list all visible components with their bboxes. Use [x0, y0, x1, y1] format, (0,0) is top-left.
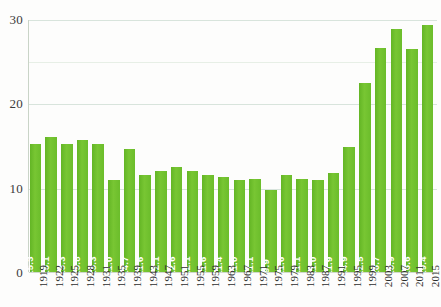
bar-slot: 26.7	[374, 20, 390, 273]
bar-slot: 16.1	[45, 20, 61, 273]
x-axis-tick-label: 1919	[29, 275, 45, 307]
bar[interactable]: 12.1	[155, 171, 167, 273]
x-axis-tick-label: 1979	[280, 275, 296, 307]
bar-slot: 22.5	[359, 20, 375, 273]
bar-slot: 11.9	[327, 20, 343, 273]
bar-slot: 15.8	[76, 20, 92, 273]
bar-slot: 12.1	[186, 20, 202, 273]
bar-slot: 26.6	[406, 20, 422, 273]
bar[interactable]: 16.1	[45, 137, 57, 273]
x-axis-tick-label: 1991	[327, 275, 343, 307]
x-axis-tick-label: 1999	[359, 275, 375, 307]
x-axis-tick-label: 1951	[170, 275, 186, 307]
bar[interactable]: 26.6	[406, 49, 418, 273]
x-axis-tick-label: 1947	[155, 275, 171, 307]
bar[interactable]: 15.3	[30, 144, 42, 273]
bar[interactable]: 22.5	[359, 83, 371, 273]
bar-slot: 29.4	[421, 20, 437, 273]
bar[interactable]: 14.7	[124, 149, 136, 273]
bar[interactable]: 15.3	[61, 144, 73, 273]
bar-slot: 11.0	[107, 20, 123, 273]
y-axis-tick-label: 10	[10, 181, 23, 197]
bar-slot: 11.1	[249, 20, 265, 273]
bar-slot: 14.7	[123, 20, 139, 273]
x-axis-tick-label: 1967	[233, 275, 249, 307]
bar-slot: 11.6	[139, 20, 155, 273]
x-axis-tick-label: 2011	[406, 275, 422, 307]
bar-slot: 11.0	[233, 20, 249, 273]
x-axis-tick-label: 1983	[296, 275, 312, 307]
y-axis-tick-label: 0	[16, 265, 23, 281]
y-axis-tick-label: 20	[10, 96, 23, 112]
x-axis-tick-label: 1935	[107, 275, 123, 307]
bar[interactable]: 11.0	[108, 180, 120, 273]
x-axis-tick-label: 1931	[92, 275, 108, 307]
x-axis-tick-label: 1939	[123, 275, 139, 307]
bar-slot: 15.3	[29, 20, 45, 273]
bar-slot: 15.3	[92, 20, 108, 273]
x-axis-tick-label: 1959	[202, 275, 218, 307]
bar-slot: 14.9	[343, 20, 359, 273]
bar-slot: 12.6	[170, 20, 186, 273]
bar-slot: 11.0	[311, 20, 327, 273]
x-axis-tick-label: 1928	[76, 275, 92, 307]
x-axis: 1919192219251928193119351939194319471951…	[29, 275, 437, 307]
x-axis-tick-label: 1925	[60, 275, 76, 307]
x-axis-tick-label: 1995	[343, 275, 359, 307]
bar[interactable]: 15.3	[92, 144, 104, 273]
bar-slot: 11.6	[202, 20, 218, 273]
y-axis-tick-label: 30	[10, 12, 23, 28]
x-axis-tick-label: 1955	[186, 275, 202, 307]
x-axis-tick-label: 2007	[390, 275, 406, 307]
chart-page: 0102030 15.316.115.315.815.311.014.711.6…	[0, 0, 441, 307]
bar-slot: 15.3	[60, 20, 76, 273]
x-axis-tick-label: 2003	[374, 275, 390, 307]
x-axis-tick-label: 1943	[139, 275, 155, 307]
bar-slot: 28.9	[390, 20, 406, 273]
x-axis-tick-label: 1971	[249, 275, 265, 307]
bar-slot: 11.6	[280, 20, 296, 273]
bar-series: 15.316.115.315.815.311.014.711.612.112.6…	[29, 20, 437, 273]
bar-slot: 11.1	[296, 20, 312, 273]
bar[interactable]: 29.4	[422, 25, 434, 273]
bar[interactable]: 11.0	[312, 180, 324, 273]
bar-slot: 11.4	[217, 20, 233, 273]
x-axis-tick-label: 1963	[217, 275, 233, 307]
x-axis-tick-text: 2015	[429, 265, 441, 287]
bar[interactable]: 28.9	[391, 29, 403, 273]
x-axis-tick-label: 1922	[45, 275, 61, 307]
bar-slot: 9.9	[264, 20, 280, 273]
x-axis-tick-label: 2015	[421, 275, 437, 307]
plot-area: 15.316.115.315.815.311.014.711.612.112.6…	[29, 20, 437, 273]
bar[interactable]: 26.7	[375, 48, 387, 273]
bar[interactable]: 14.9	[343, 147, 355, 273]
x-axis-tick-label: 1975	[264, 275, 280, 307]
x-axis-tick-label: 1987	[311, 275, 327, 307]
bar[interactable]: 15.8	[77, 140, 89, 273]
bar-slot: 12.1	[155, 20, 171, 273]
